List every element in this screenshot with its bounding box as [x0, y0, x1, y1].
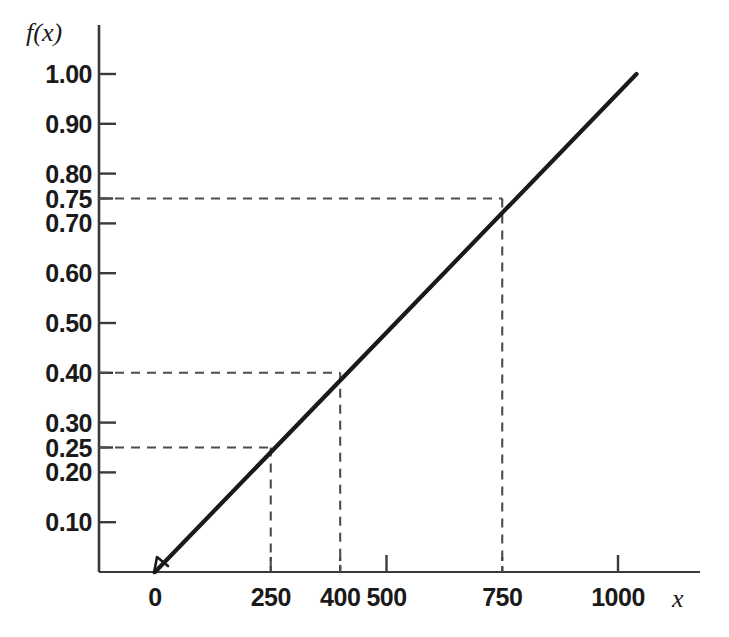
chart-figure: 1.000.900.800.750.700.600.500.400.300.25… — [0, 0, 729, 637]
y-axis-ticks — [99, 74, 116, 522]
axes — [99, 25, 700, 572]
y-tick-label: 0.40 — [0, 358, 92, 387]
x-tick-label: 1000 — [591, 583, 645, 612]
x-tick-label: 0 — [148, 583, 161, 612]
x-tick-label: 750 — [482, 583, 522, 612]
x-axis-ticks — [271, 555, 618, 572]
y-tick-label: 0.20 — [0, 458, 92, 487]
y-axis-label: f(x) — [26, 18, 62, 48]
y-tick-label: 0.90 — [0, 109, 92, 138]
chart-plot-area — [0, 0, 729, 637]
y-tick-label: 0.10 — [0, 508, 92, 537]
data-series — [154, 74, 637, 573]
series-line — [155, 74, 637, 572]
x-tick-label: 500 — [366, 583, 406, 612]
y-tick-label: 0.70 — [0, 209, 92, 238]
y-tick-label: 1.00 — [0, 60, 92, 89]
x-tick-label: 250 — [251, 583, 291, 612]
y-tick-label: 0.60 — [0, 259, 92, 288]
x-tick-label: 400 — [320, 583, 360, 612]
reference-droplines — [99, 199, 502, 573]
y-tick-label: 0.50 — [0, 309, 92, 338]
x-axis-label: x — [672, 584, 684, 614]
